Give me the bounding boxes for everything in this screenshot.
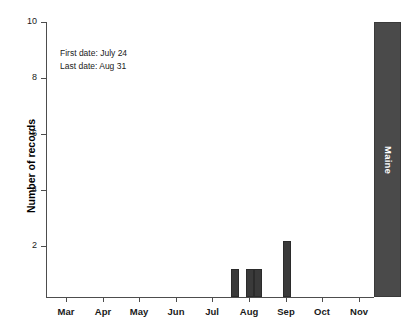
y-tick-2	[41, 246, 46, 247]
x-tick-jul	[212, 297, 213, 302]
y-tick-6	[41, 134, 46, 135]
x-tick-aug	[249, 297, 250, 302]
bar-maine-label: Maine	[382, 146, 393, 174]
x-tick-label-nov: Nov	[350, 306, 368, 317]
x-tick-label-oct: Oct	[314, 306, 330, 317]
bar-aug-1	[231, 269, 239, 297]
bar-aug-3	[254, 269, 262, 297]
y-tick-label-4: 4	[3, 185, 37, 194]
x-tick-sep	[286, 297, 287, 302]
x-tick-oct	[322, 297, 323, 302]
x-tick-label-jun: Jun	[168, 306, 185, 317]
y-tick-label-8: 8	[3, 73, 37, 82]
bar-aug-2	[246, 269, 254, 297]
x-tick-label-aug: Aug	[240, 306, 258, 317]
annotation-last-date: Last date: Aug 31	[60, 60, 127, 73]
bar-maine: Maine	[374, 22, 401, 297]
x-tick-label-sep: Sep	[277, 306, 294, 317]
bar-sep-1	[283, 241, 291, 297]
y-tick-label-10: 10	[3, 17, 37, 26]
x-tick-label-may: May	[130, 306, 148, 317]
y-axis-title: Number of records	[25, 86, 37, 246]
y-tick-8	[41, 78, 46, 79]
y-tick-4	[41, 190, 46, 191]
y-tick-label-6: 6	[3, 129, 37, 138]
y-tick-10	[41, 22, 46, 23]
x-tick-may	[139, 297, 140, 302]
x-tick-apr	[103, 297, 104, 302]
x-tick-label-mar: Mar	[58, 306, 75, 317]
x-tick-label-jul: Jul	[205, 306, 219, 317]
annotation-first-date: First date: July 24	[60, 47, 127, 60]
x-axis-line	[46, 297, 374, 298]
chart-figure: Number of records 10 8 6 4 2 Mar Apr May…	[0, 0, 418, 331]
y-axis-line	[46, 22, 47, 298]
x-tick-jun	[176, 297, 177, 302]
x-tick-nov	[359, 297, 360, 302]
x-tick-mar	[66, 297, 67, 302]
date-range-annotation: First date: July 24 Last date: Aug 31	[60, 47, 127, 72]
x-tick-label-apr: Apr	[95, 306, 111, 317]
y-tick-label-2: 2	[3, 241, 37, 250]
